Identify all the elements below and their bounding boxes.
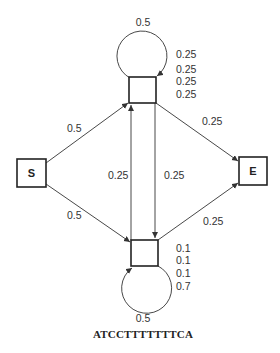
label-top-to-bottom: 0.25 (164, 169, 185, 181)
bottom-emission-2: 0.1 (176, 254, 191, 266)
top-emission-1: 0.25 (176, 48, 197, 60)
bottom-emission-4: 0.7 (176, 280, 191, 292)
bottom-emission-3: 0.1 (176, 267, 191, 279)
node-end-label: E (249, 165, 256, 177)
self-loop-bottom (122, 266, 172, 313)
label-start-to-bottom: 0.5 (67, 209, 82, 221)
node-start: S (17, 159, 46, 187)
top-emission-4: 0.25 (176, 88, 197, 100)
edge-top-to-end (156, 103, 238, 161)
node-start-label: S (28, 167, 35, 179)
node-top-state (129, 77, 156, 103)
node-end: E (239, 157, 267, 185)
edge-start-to-top (46, 103, 128, 163)
label-top-to-end: 0.25 (202, 115, 223, 127)
edge-start-to-bottom (46, 184, 130, 242)
bottom-self-loop-prob: 0.5 (136, 312, 151, 324)
edge-bottom-to-end (158, 183, 238, 240)
bottom-emissions: 0.1 0.1 0.1 0.7 (176, 242, 191, 292)
top-self-loop-prob: 0.5 (136, 16, 151, 28)
self-loop-top (117, 31, 167, 78)
label-bottom-to-top: 0.25 (108, 169, 129, 181)
sequence-label: ATCCTTTTTTTCA (93, 328, 193, 340)
top-emission-2: 0.25 (176, 63, 197, 75)
hmm-diagram: S E 0.5 0.5 0.25 0.25 0.25 0.25 0.1 0.1 … (0, 0, 280, 353)
node-bottom-state (131, 240, 158, 266)
label-bottom-to-end: 0.25 (203, 215, 224, 227)
bottom-emission-1: 0.1 (176, 242, 191, 254)
label-start-to-top: 0.5 (67, 122, 82, 134)
top-emission-3: 0.25 (176, 75, 197, 87)
top-emissions: 0.25 0.25 0.25 0.25 (176, 48, 197, 100)
